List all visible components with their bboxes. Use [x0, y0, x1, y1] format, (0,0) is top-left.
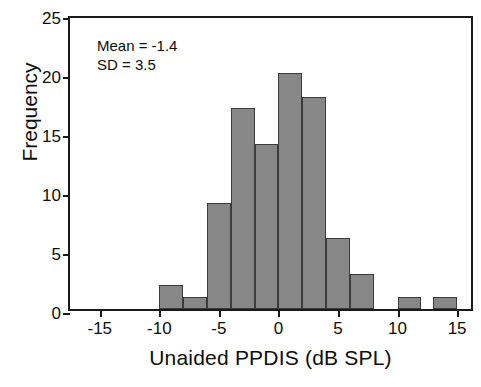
histogram-bar: [255, 144, 279, 309]
histogram-bar: [231, 108, 255, 309]
y-tick-mark: [63, 254, 70, 256]
histogram-bar: [159, 285, 183, 309]
x-tick-label: -10: [147, 320, 172, 337]
y-tick-mark: [63, 18, 70, 20]
x-axis-title: Unaided PPDIS (dB SPL): [68, 346, 473, 370]
x-tick-mark: [398, 309, 400, 317]
histogram-bar: [398, 297, 422, 309]
histogram-bar: [183, 297, 207, 309]
x-tick-label: 5: [333, 320, 342, 337]
y-tick-mark: [63, 195, 70, 197]
histogram-bar: [207, 203, 231, 309]
histogram-bar: [350, 274, 374, 309]
x-tick-mark: [159, 309, 161, 317]
y-axis-title: Frequency: [18, 0, 42, 237]
x-tick-label: -15: [87, 320, 112, 337]
y-tick-mark: [63, 77, 70, 79]
histogram-bar: [326, 238, 350, 309]
x-tick-mark: [100, 309, 102, 317]
y-tick-label: 25: [42, 10, 61, 27]
y-tick-label: 5: [52, 246, 61, 263]
y-tick-label: 10: [42, 187, 61, 204]
x-tick-label: 0: [274, 320, 283, 337]
x-tick-label: 10: [388, 320, 407, 337]
y-tick-mark: [63, 313, 70, 315]
statistics-annotation: Mean = -1.4 SD = 3.5: [97, 36, 177, 74]
x-tick-mark: [219, 309, 221, 317]
sd-text: SD = 3.5: [97, 55, 177, 74]
x-tick-mark: [457, 309, 459, 317]
mean-text: Mean = -1.4: [97, 36, 177, 55]
histogram-bar: [433, 297, 457, 309]
x-tick-label: 15: [448, 320, 467, 337]
histogram-bar: [302, 97, 326, 309]
x-tick-mark: [338, 309, 340, 317]
x-tick-label: -5: [211, 320, 226, 337]
histogram-bar: [278, 73, 302, 309]
y-tick-label: 20: [42, 69, 61, 86]
y-tick-label: 0: [52, 305, 61, 322]
x-tick-mark: [278, 309, 280, 317]
y-tick-mark: [63, 136, 70, 138]
histogram-figure: 0510152025 -15-10-5051015 Mean = -1.4 SD…: [0, 0, 481, 387]
y-tick-label: 15: [42, 128, 61, 145]
